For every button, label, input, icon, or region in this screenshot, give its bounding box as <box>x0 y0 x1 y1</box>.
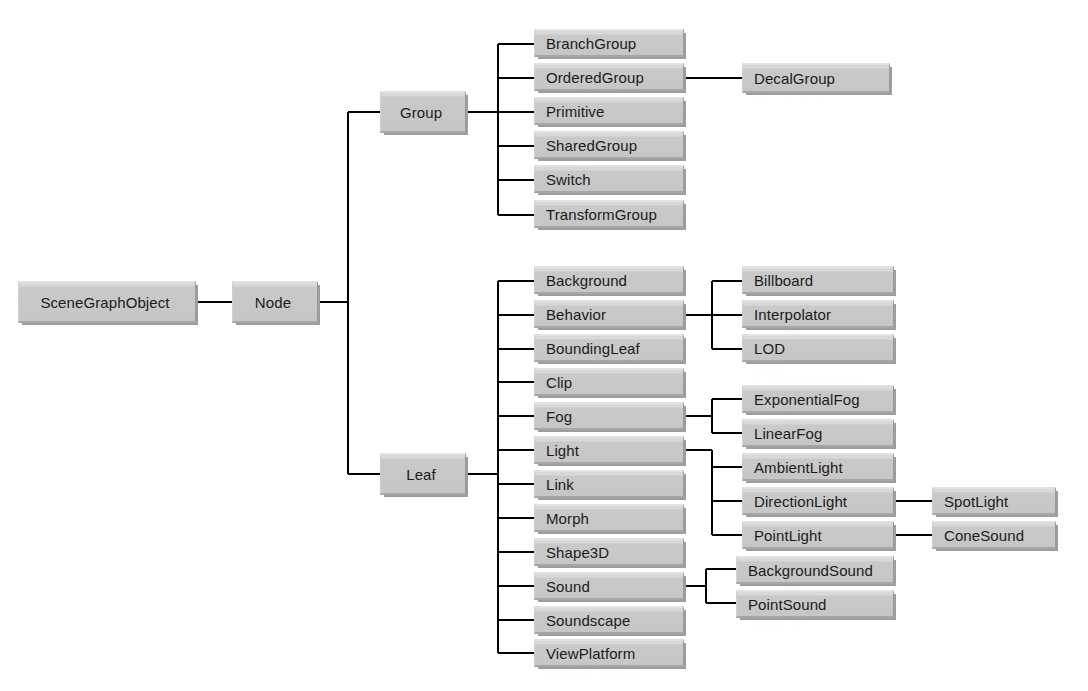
node-label: Node <box>255 295 295 310</box>
node-label: BranchGroup <box>535 36 646 51</box>
node-fog[interactable]: Fog <box>534 402 684 430</box>
node-label: Behavior <box>535 307 616 322</box>
node-label: Light <box>535 443 589 458</box>
node-primitive[interactable]: Primitive <box>534 97 684 125</box>
node-label: SceneGraphObject <box>40 295 173 310</box>
node-label: PointLight <box>743 528 832 543</box>
node-behavior[interactable]: Behavior <box>534 300 684 328</box>
node-exponentialfog[interactable]: ExponentialFog <box>742 385 894 413</box>
node-light[interactable]: Light <box>534 436 684 464</box>
node-pointsound[interactable]: PointSound <box>736 590 894 618</box>
node-group[interactable]: Group <box>380 91 466 133</box>
node-orderedgroup[interactable]: OrderedGroup <box>534 63 684 91</box>
node-scenegraphobject[interactable]: SceneGraphObject <box>18 281 196 323</box>
node-decalgroup[interactable]: DecalGroup <box>742 63 890 93</box>
node-node[interactable]: Node <box>232 281 318 323</box>
node-sound[interactable]: Sound <box>534 572 684 600</box>
node-label: DirectionLight <box>743 494 857 509</box>
node-label: Group <box>400 105 446 120</box>
node-label: BackgroundSound <box>737 563 883 578</box>
node-label: ConeSound <box>933 528 1034 543</box>
node-switch[interactable]: Switch <box>534 165 684 193</box>
scene-graph-hierarchy-diagram: SceneGraphObject Node Group Leaf BranchG… <box>0 0 1088 691</box>
node-label: SpotLight <box>933 494 1018 509</box>
node-clip[interactable]: Clip <box>534 368 684 396</box>
node-label: ExponentialFog <box>743 392 870 407</box>
node-label: ViewPlatform <box>535 646 645 661</box>
node-branchgroup[interactable]: BranchGroup <box>534 29 684 57</box>
node-lod[interactable]: LOD <box>742 334 894 362</box>
node-label: BoundingLeaf <box>535 341 650 356</box>
node-shape3d[interactable]: Shape3D <box>534 538 684 566</box>
node-boundingleaf[interactable]: BoundingLeaf <box>534 334 684 362</box>
node-label: Clip <box>535 375 582 390</box>
node-linearfog[interactable]: LinearFog <box>742 419 894 447</box>
node-viewplatform[interactable]: ViewPlatform <box>534 639 684 667</box>
node-interpolator[interactable]: Interpolator <box>742 300 894 328</box>
node-link[interactable]: Link <box>534 470 684 498</box>
node-label: AmbientLight <box>743 460 853 475</box>
node-label: Shape3D <box>535 545 619 560</box>
node-label: PointSound <box>737 597 837 612</box>
node-background[interactable]: Background <box>534 266 684 294</box>
node-ambientlight[interactable]: AmbientLight <box>742 453 894 481</box>
node-label: Background <box>535 273 637 288</box>
node-leaf[interactable]: Leaf <box>380 453 466 495</box>
node-label: Link <box>535 477 584 492</box>
node-soundscape[interactable]: Soundscape <box>534 606 684 634</box>
node-label: Leaf <box>406 467 440 482</box>
node-label: OrderedGroup <box>535 70 654 85</box>
node-spotlight[interactable]: SpotLight <box>932 487 1056 515</box>
node-label: Billboard <box>743 273 823 288</box>
node-billboard[interactable]: Billboard <box>742 266 894 294</box>
node-label: SharedGroup <box>535 138 647 153</box>
node-label: Fog <box>535 409 582 424</box>
node-pointlight[interactable]: PointLight <box>742 521 894 549</box>
node-label: DecalGroup <box>743 71 845 86</box>
node-label: Sound <box>535 579 600 594</box>
node-directionlight[interactable]: DirectionLight <box>742 487 894 515</box>
node-transformgroup[interactable]: TransformGroup <box>534 200 684 228</box>
node-label: LinearFog <box>743 426 832 441</box>
node-label: TransformGroup <box>535 207 667 222</box>
node-label: Switch <box>535 172 601 187</box>
node-sharedgroup[interactable]: SharedGroup <box>534 131 684 159</box>
node-label: Interpolator <box>743 307 841 322</box>
node-morph[interactable]: Morph <box>534 504 684 532</box>
node-label: LOD <box>743 341 795 356</box>
node-label: Primitive <box>535 104 614 119</box>
node-backgroundsound[interactable]: BackgroundSound <box>736 556 894 584</box>
node-label: Soundscape <box>535 613 640 628</box>
node-label: Morph <box>535 511 599 526</box>
node-conesound[interactable]: ConeSound <box>932 521 1056 549</box>
